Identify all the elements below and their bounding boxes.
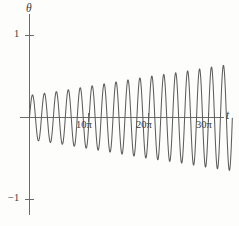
y-tick-label-one: 1 xyxy=(14,29,19,40)
x-tick-label-10pi: 10π xyxy=(76,120,92,131)
x-tick-label-30pi: 30π xyxy=(196,120,212,131)
y-tick-label-negative-one: −1 xyxy=(8,193,19,204)
x-tick-label-20pi: 20π xyxy=(136,120,152,131)
plot-canvas xyxy=(0,0,239,226)
y-axis-label: θ xyxy=(26,3,32,15)
x-axis-label: t xyxy=(226,110,229,122)
chart-figure: θ t 1 −1 10π 20π 30π xyxy=(0,0,239,226)
